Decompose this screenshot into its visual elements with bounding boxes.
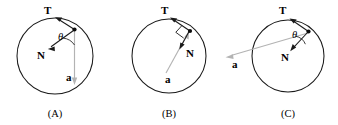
- angle-label-c: θ: [292, 29, 297, 40]
- panel-caption-c: (C): [281, 108, 296, 120]
- tension-label-a: T: [44, 4, 52, 16]
- contact-point-b: [188, 29, 192, 33]
- diagram-panel-c: θ T N a (C): [220, 0, 338, 125]
- circle-outline-a: [17, 18, 93, 94]
- acceleration-label-b: a: [165, 73, 171, 85]
- diagram-panel-a: θ T N a (A): [0, 0, 113, 125]
- normal-label-a: N: [37, 49, 45, 61]
- tension-label-b: T: [161, 4, 169, 16]
- panel-caption-a: (A): [48, 108, 63, 120]
- right-angle-marker-b: [176, 26, 184, 38]
- acceleration-label-a: a: [66, 71, 72, 83]
- acceleration-vector-a: [72, 31, 77, 85]
- acceleration-label-c: a: [232, 58, 238, 70]
- angle-arc-a: [63, 38, 74, 45]
- figure-container: θ T N a (A) T N a (B): [0, 0, 338, 125]
- panel-caption-b: (B): [162, 108, 177, 120]
- diagram-panel-b: T N a (B): [110, 0, 223, 125]
- contact-point-c: [306, 29, 310, 33]
- normal-label-b: N: [186, 47, 194, 59]
- contact-point-a: [72, 27, 76, 31]
- tension-label-c: T: [279, 4, 287, 16]
- angle-label-a: θ: [58, 31, 63, 42]
- normal-label-c: N: [281, 51, 289, 63]
